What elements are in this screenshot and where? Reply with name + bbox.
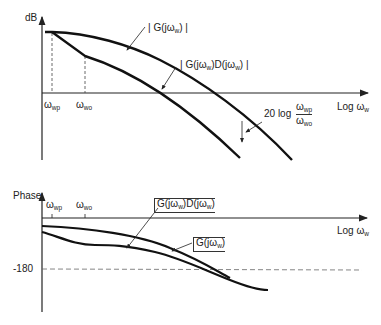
g-label-leader bbox=[127, 27, 145, 50]
gd-magnitude-curve bbox=[52, 32, 240, 158]
annotation-20log: 20 log bbox=[264, 109, 291, 119]
gd-phase-label: G(jωw)D(jωw) bbox=[154, 198, 215, 213]
g-phase-leader bbox=[172, 243, 192, 251]
gd-label-leader bbox=[162, 67, 176, 89]
minus-180-label: -180 bbox=[13, 264, 33, 274]
g-magnitude-label: | G(jωw) | bbox=[148, 23, 188, 35]
wp-tick-label: ωwp bbox=[44, 100, 60, 112]
bode-diagram bbox=[0, 0, 381, 325]
gd-phase-curve bbox=[42, 226, 230, 278]
g-phase-curve bbox=[42, 232, 268, 290]
magnitude-plot bbox=[42, 17, 368, 160]
g-magnitude-curve bbox=[45, 32, 292, 160]
annotation-fraction: ωwp ωwo bbox=[296, 101, 312, 127]
phase-x-axis-label: Log ωw bbox=[337, 226, 369, 238]
g-phase-label: G(jωw) bbox=[193, 237, 225, 252]
magnitude-x-axis-label: Log ωw bbox=[337, 102, 369, 114]
wo-tick-label: ωwo bbox=[76, 100, 92, 112]
gd-magnitude-label: | G(jωw)D(jωw) | bbox=[180, 60, 249, 72]
phase-wo-tick-label: ωwo bbox=[76, 200, 92, 212]
db-axis-label: dB bbox=[25, 13, 37, 23]
phase-wp-tick-label: ωwp bbox=[46, 200, 62, 212]
phase-axis-label: Phase bbox=[13, 191, 41, 201]
